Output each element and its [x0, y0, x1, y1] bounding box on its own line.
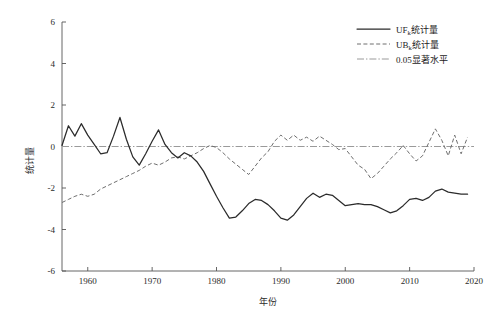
x-tick-label: 1960: [79, 276, 98, 286]
y-tick-label: 4: [51, 59, 56, 69]
x-axis-title-label: 年份: [259, 296, 277, 307]
mann-kendall-chart: 6420-2-4-6 1960197019801990200020102020 …: [0, 0, 501, 325]
legend-label-significance: 0.05显著水平: [396, 54, 448, 65]
y-tick-label: -4: [48, 225, 56, 235]
x-tick-label: 2000: [336, 276, 355, 286]
series-uf-statistic: [62, 117, 468, 220]
y-axis-title-label: 统计量: [24, 147, 35, 174]
legend-ub-tail: 统计量: [412, 39, 439, 50]
y-tick-label: -6: [48, 266, 56, 276]
x-tick-label: 1990: [272, 276, 291, 286]
y-tick-label: 2: [51, 100, 56, 110]
y-axis-title: 统计量: [24, 147, 35, 174]
y-tick-label: 6: [51, 17, 56, 27]
x-tick-label: 2020: [465, 276, 484, 286]
legend-ub-main: UB: [396, 40, 409, 50]
y-tick-label: -2: [48, 183, 56, 193]
legend-label-uf: UFk统计量: [396, 24, 438, 36]
x-axis-title: 年份: [259, 296, 277, 307]
chart-legend: UFk统计量 UBk统计量 0.05显著水平: [357, 24, 448, 65]
x-tick-label: 1970: [143, 276, 162, 286]
y-tick-label: 0: [51, 142, 56, 152]
legend-label-ub: UBk统计量: [396, 39, 439, 51]
series-ub-statistic: [62, 129, 468, 203]
x-axis-ticks: 1960197019801990200020102020: [79, 267, 484, 286]
legend-uf-tail: 统计量: [411, 24, 438, 35]
legend-uf-main: UF: [396, 25, 408, 35]
data-series: [62, 117, 474, 220]
x-tick-label: 2010: [401, 276, 420, 286]
chart-container: 6420-2-4-6 1960197019801990200020102020 …: [0, 0, 501, 325]
x-tick-label: 1980: [208, 276, 227, 286]
